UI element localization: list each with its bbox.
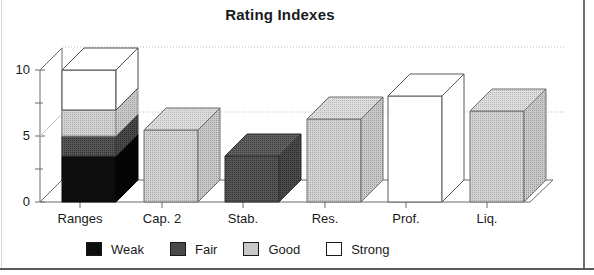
legend-item-strong: Strong <box>326 242 389 257</box>
legend-swatch-fair-icon <box>170 242 186 256</box>
legend-label-good: Good <box>268 242 300 257</box>
x-category-label-prof: Prof. <box>366 211 446 226</box>
x-category-label-ranges: Ranges <box>40 211 120 226</box>
chart-figure: Rating Indexes <box>0 0 594 275</box>
legend-item-fair: Fair <box>170 242 217 257</box>
legend-item-weak: Weak <box>86 242 144 257</box>
bar-segment-ranges-fair <box>62 136 116 156</box>
bar-front-stab <box>225 156 279 202</box>
legend-label-weak: Weak <box>111 242 144 257</box>
x-axis-ticks <box>80 202 487 208</box>
y-tick-label-10: 10 <box>4 62 30 77</box>
y-tick-label-0: 0 <box>4 194 30 209</box>
legend-item-good: Good <box>243 242 300 257</box>
bar-front-cap2 <box>144 130 198 202</box>
legend-label-fair: Fair <box>195 242 217 257</box>
y-axis <box>35 48 62 202</box>
bar-segment-ranges-good <box>62 110 116 136</box>
legend-swatch-good-icon <box>243 242 259 256</box>
legend-swatch-strong-icon <box>326 242 342 256</box>
bar-segment-ranges-weak <box>62 156 116 202</box>
x-category-label-liq: Liq. <box>447 211 527 226</box>
bar-stab <box>225 134 301 202</box>
plot-area <box>0 0 594 275</box>
bar-front-res <box>307 119 361 202</box>
bar-front-prof <box>388 96 442 202</box>
x-category-label-res: Res. <box>285 211 365 226</box>
x-category-label-cap2: Cap. 2 <box>122 211 202 226</box>
legend-label-strong: Strong <box>351 242 389 257</box>
x-category-label-stab: Stab. <box>203 211 283 226</box>
bar-ranges <box>62 48 138 202</box>
bar-front-liq <box>470 111 524 202</box>
bar-cap2 <box>144 108 220 202</box>
chart-legend: Weak Fair Good Strong <box>86 238 506 260</box>
bar-res <box>307 97 383 202</box>
bar-liq <box>470 89 546 202</box>
legend-swatch-weak-icon <box>86 242 102 256</box>
bar-prof <box>388 74 464 202</box>
y-tick-label-5: 5 <box>4 128 30 143</box>
bar-segment-ranges-strong <box>62 70 116 110</box>
